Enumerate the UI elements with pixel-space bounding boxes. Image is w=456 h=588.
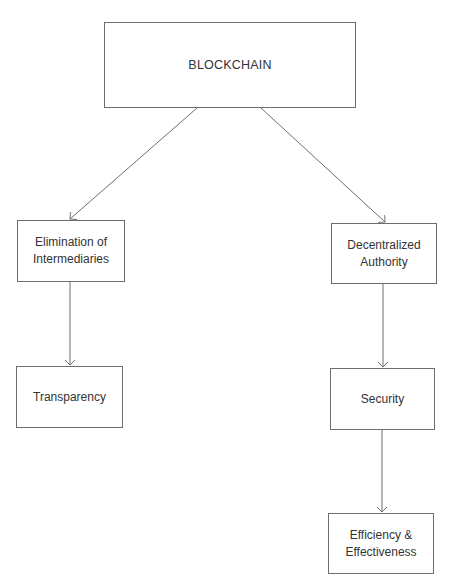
- node-blockchain: BLOCKCHAIN: [104, 22, 356, 108]
- node-label: Transparency: [33, 389, 106, 406]
- arrow-root-to-decentralized: [261, 108, 385, 222]
- node-efficiency-effectiveness: Efficiency & Effectiveness: [328, 513, 434, 574]
- node-label: Security: [361, 391, 404, 408]
- node-label: Efficiency & Effectiveness: [334, 527, 428, 561]
- node-label: Elimination of Intermediaries: [23, 234, 118, 268]
- node-decentralized-authority: Decentralized Authority: [331, 223, 437, 284]
- node-label: BLOCKCHAIN: [188, 57, 271, 74]
- arrow-root-to-elimination: [70, 108, 197, 219]
- node-elimination-of-intermediaries: Elimination of Intermediaries: [17, 220, 125, 282]
- node-security: Security: [330, 368, 435, 430]
- node-transparency: Transparency: [16, 366, 123, 428]
- node-label: Decentralized Authority: [337, 237, 431, 271]
